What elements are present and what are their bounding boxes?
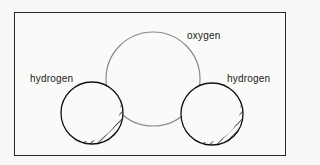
hydrogen-right-atom	[181, 83, 244, 145]
hydrogen-left-label: hydrogen	[30, 73, 73, 84]
hydrogen-left-atom	[61, 82, 124, 144]
oxygen-label: oxygen	[187, 30, 220, 41]
hydrogen-right-label: hydrogen	[227, 73, 270, 84]
